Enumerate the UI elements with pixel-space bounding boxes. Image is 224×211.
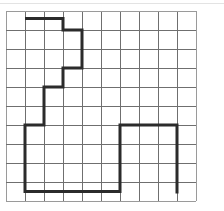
grid-lines <box>6 11 197 202</box>
figure-canvas <box>0 0 224 211</box>
grid-and-path-svg <box>0 0 224 211</box>
